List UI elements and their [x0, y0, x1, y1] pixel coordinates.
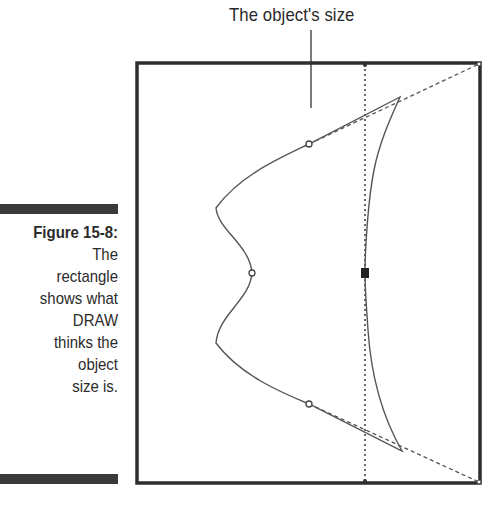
curved-object[interactable]: [216, 97, 402, 451]
bounding-rectangle[interactable]: [137, 63, 480, 483]
control-line-bottom: [309, 404, 479, 482]
draw-canvas: [0, 0, 496, 515]
guide-bottom-point: [363, 479, 367, 483]
center-handle[interactable]: [361, 268, 369, 278]
node-handle-top[interactable]: [306, 141, 312, 147]
guide-top-point: [363, 63, 367, 67]
node-handle-middle[interactable]: [249, 270, 255, 276]
corner-handle-top-right[interactable]: [477, 62, 481, 66]
node-handle-bottom[interactable]: [306, 401, 312, 407]
control-line-top: [309, 64, 479, 144]
corner-handle-bottom-right[interactable]: [477, 480, 481, 484]
